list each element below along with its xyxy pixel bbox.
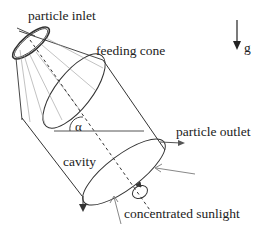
particle-outlet-label: particle outlet [176, 125, 251, 139]
cavity-label: cavity [63, 155, 96, 169]
concentrated-sunlight-label: concentrated sunlight [124, 207, 240, 221]
down-outlet-arrow [79, 196, 87, 212]
gravity-label: g [244, 41, 251, 55]
angle-alpha-label: α [75, 120, 82, 133]
axis-line [30, 40, 152, 213]
gravity-arrow [233, 20, 241, 50]
rotation-icon [130, 182, 150, 201]
receiver-diagram: particle inlet feeding cone g α particle… [0, 0, 264, 236]
feeding-cone-label: feeding cone [96, 44, 165, 58]
cavity [22, 60, 174, 216]
diagram-graphics [0, 0, 264, 236]
outlet-arrow [160, 140, 185, 146]
particle-inlet-label: particle inlet [28, 9, 96, 23]
feeding-cone [8, 22, 116, 137]
